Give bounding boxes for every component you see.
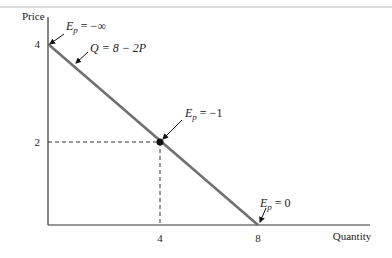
- x-tick-label: 8: [255, 232, 261, 244]
- x-axis-label: Quantity: [333, 230, 372, 242]
- x-tick-label: 4: [157, 232, 163, 244]
- demand-line: [48, 44, 258, 225]
- annotation-label: Ep = 0: [259, 196, 291, 212]
- annotation-label: Ep = −∞: [65, 19, 106, 35]
- annotation-label: Ep = −1: [184, 106, 222, 122]
- y-tick-label: 4: [35, 38, 41, 50]
- annotation-label: Q = 8 − 2P: [90, 41, 147, 55]
- annotation-arrow: [260, 208, 266, 222]
- annotation-arrow: [76, 52, 88, 63]
- annotation-arrow: [50, 34, 64, 44]
- demand-chart: 4824 Ep = −∞Q = 8 − 2PEp = −1Ep = 0 Pric…: [0, 0, 392, 258]
- annotation-arrow: [163, 120, 182, 139]
- unit-elastic-point: [157, 139, 164, 146]
- y-axis-label: Price: [22, 10, 45, 22]
- y-tick-label: 2: [35, 136, 41, 148]
